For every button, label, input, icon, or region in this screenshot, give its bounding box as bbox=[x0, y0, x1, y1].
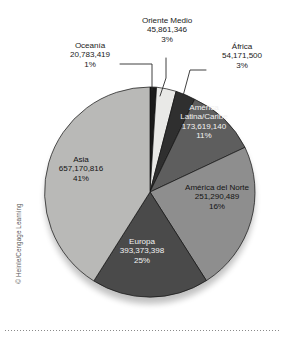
label-america-latina-caribe: América Latina/Caribe 173,619,140 11% bbox=[166, 103, 242, 141]
label-africa: África 54,171,500 3% bbox=[205, 42, 279, 70]
label-oceania-name: Oceanía bbox=[48, 41, 132, 50]
label-america-del-norte-percent: 16% bbox=[161, 202, 273, 211]
label-america-latina-caribe-percent: 11% bbox=[166, 131, 242, 140]
label-america-latina-caribe-name: América bbox=[166, 103, 242, 112]
label-europa-value: 393,373,398 bbox=[101, 246, 183, 255]
leader-line-africa bbox=[183, 70, 206, 96]
label-europa-percent: 25% bbox=[101, 256, 183, 265]
label-africa-name: África bbox=[205, 42, 279, 51]
label-oriente-medio: Oriente Medio 45,861,346 3% bbox=[122, 16, 212, 44]
label-america-latina-caribe-name2: Latina/Caribe bbox=[166, 112, 242, 121]
copyright-credit: © Heinle/Cengage Learning bbox=[15, 198, 22, 290]
label-oceania-percent: 1% bbox=[48, 60, 132, 69]
label-asia: Asia 657,170,816 41% bbox=[40, 155, 122, 183]
label-america-del-norte-name: América del Norte bbox=[161, 183, 273, 192]
label-america-del-norte: América del Norte 251,290,489 16% bbox=[161, 183, 273, 211]
label-asia-percent: 41% bbox=[40, 174, 122, 183]
bottom-dotted-rule bbox=[4, 330, 279, 331]
label-oceania: Oceanía 20,783,419 1% bbox=[48, 41, 132, 69]
label-america-del-norte-value: 251,290,489 bbox=[161, 192, 273, 201]
label-oriente-medio-percent: 3% bbox=[122, 35, 212, 44]
label-asia-name: Asia bbox=[40, 155, 122, 164]
label-oceania-value: 20,783,419 bbox=[48, 50, 132, 59]
label-africa-value: 54,171,500 bbox=[205, 51, 279, 60]
label-europa-name: Europa bbox=[101, 237, 183, 246]
label-africa-percent: 3% bbox=[205, 61, 279, 70]
label-america-latina-caribe-value: 173,619,140 bbox=[166, 122, 242, 131]
label-europa: Europa 393,373,398 25% bbox=[101, 237, 183, 265]
label-asia-value: 657,170,816 bbox=[40, 164, 122, 173]
label-oriente-medio-name: Oriente Medio bbox=[122, 16, 212, 25]
pie-chart-figure: Oceanía 20,783,419 1% Oriente Medio 45,8… bbox=[0, 0, 283, 337]
label-oriente-medio-value: 45,861,346 bbox=[122, 25, 212, 34]
